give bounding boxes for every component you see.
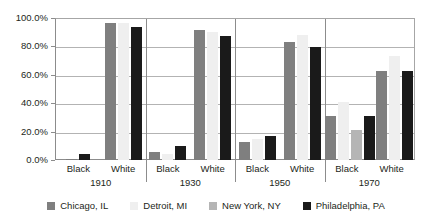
- x-race-label-black: Black: [325, 162, 370, 175]
- x-axis: BlackWhite1910BlackWhite1930BlackWhite19…: [56, 162, 414, 196]
- x-race-row: BlackWhite: [235, 162, 325, 175]
- x-group-1950: BlackWhite1950: [235, 162, 325, 196]
- bar-chicago-1930-black[interactable]: [149, 152, 160, 160]
- bar-chicago-1970-white[interactable]: [376, 71, 387, 160]
- legend-label: Chicago, IL: [60, 201, 108, 211]
- x-group-1910: BlackWhite1910: [56, 162, 146, 196]
- bar-philadelphia-1950-white[interactable]: [310, 47, 321, 160]
- year-block-1970: [325, 19, 415, 160]
- y-tick-label: 0.0%: [26, 155, 48, 165]
- bar-chicago-1950-black[interactable]: [239, 142, 250, 160]
- bar-group-1910-black: [56, 19, 101, 160]
- bar-detroit-1910-white[interactable]: [118, 23, 129, 160]
- bar-group-1970-black: [325, 19, 375, 160]
- legend-item-newyork[interactable]: New York, NY: [209, 201, 281, 211]
- legend-label: New York, NY: [222, 201, 281, 211]
- bar-group-1930-white: [190, 19, 235, 160]
- x-race-label-white: White: [101, 162, 146, 175]
- x-race-label-black: Black: [146, 162, 191, 175]
- legend-swatch-icon-chicago: [47, 202, 55, 210]
- y-tick-label: 100.0%: [16, 13, 48, 23]
- legend-label: Philadelphia, PA: [316, 201, 385, 211]
- bar-philadelphia-1950-black[interactable]: [265, 136, 276, 160]
- bar-group-1970-white: [375, 19, 415, 160]
- year-block-1930: [146, 19, 236, 160]
- bar-group-1950-black: [235, 19, 280, 160]
- bar-newyork-1970-black[interactable]: [351, 130, 362, 160]
- legend-label: Detroit, MI: [143, 201, 187, 211]
- x-race-row: BlackWhite: [325, 162, 415, 175]
- bar-philadelphia-1910-black[interactable]: [79, 154, 90, 160]
- x-group-1930: BlackWhite1930: [146, 162, 236, 196]
- bar-chicago-1910-black[interactable]: [66, 159, 77, 160]
- bar-chicago-1970-black[interactable]: [325, 116, 336, 160]
- x-race-label-white: White: [190, 162, 235, 175]
- legend-swatch-icon-detroit: [130, 202, 138, 210]
- bar-philadelphia-1910-white[interactable]: [131, 27, 142, 160]
- y-tick-label: 40.0%: [21, 98, 48, 108]
- bar-detroit-1970-white[interactable]: [389, 56, 400, 160]
- x-race-label-black: Black: [56, 162, 101, 175]
- bar-group-1950-white: [280, 19, 325, 160]
- x-group-1970: BlackWhite1970: [325, 162, 415, 196]
- legend-item-chicago[interactable]: Chicago, IL: [47, 201, 108, 211]
- x-race-label-black: Black: [235, 162, 280, 175]
- bar-detroit-1930-black[interactable]: [162, 154, 173, 160]
- legend-item-philadelphia[interactable]: Philadelphia, PA: [303, 201, 385, 211]
- chart-legend: Chicago, ILDetroit, MINew York, NYPhilad…: [0, 198, 432, 214]
- legend-swatch-icon-philadelphia: [303, 202, 311, 210]
- bar-chicago-1930-white[interactable]: [194, 30, 205, 160]
- x-year-label: 1930: [180, 176, 201, 190]
- bar-philadelphia-1970-black[interactable]: [364, 116, 375, 160]
- bar-detroit-1970-black[interactable]: [338, 102, 349, 160]
- bar-group-1910-white: [101, 19, 146, 160]
- legend-swatch-icon-newyork: [209, 202, 217, 210]
- x-race-row: BlackWhite: [146, 162, 236, 175]
- bar-chicago-1950-white[interactable]: [284, 42, 295, 160]
- y-axis: 100.0% 80.0% 60.0% 40.0% 20.0% 0.0%: [0, 0, 55, 178]
- bar-philadelphia-1970-white[interactable]: [402, 71, 413, 160]
- x-race-label-white: White: [369, 162, 414, 175]
- year-block-1910: [56, 19, 146, 160]
- year-block-1950: [235, 19, 325, 160]
- bar-chart: 100.0% 80.0% 60.0% 40.0% 20.0% 0.0% Blac…: [0, 0, 432, 221]
- x-race-row: BlackWhite: [56, 162, 146, 175]
- y-tick-label: 20.0%: [21, 127, 48, 137]
- bar-groups: [56, 19, 414, 160]
- bar-group-1930-black: [146, 19, 191, 160]
- x-year-label: 1970: [359, 176, 380, 190]
- y-tick-label: 60.0%: [21, 70, 48, 80]
- x-year-label: 1910: [90, 176, 111, 190]
- x-year-label: 1950: [269, 176, 290, 190]
- bar-detroit-1930-white[interactable]: [207, 32, 218, 160]
- y-tick-mark: [51, 160, 55, 161]
- bar-chicago-1910-white[interactable]: [105, 23, 116, 160]
- y-tick-label: 80.0%: [21, 42, 48, 52]
- bar-detroit-1950-black[interactable]: [252, 139, 263, 160]
- bar-philadelphia-1930-black[interactable]: [175, 146, 186, 160]
- legend-item-detroit[interactable]: Detroit, MI: [130, 201, 187, 211]
- bar-philadelphia-1930-white[interactable]: [220, 36, 231, 160]
- x-race-label-white: White: [280, 162, 325, 175]
- bar-detroit-1950-white[interactable]: [297, 35, 308, 160]
